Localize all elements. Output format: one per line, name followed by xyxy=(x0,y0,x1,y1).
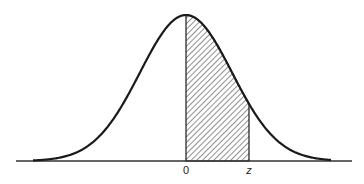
normal-curve-diagram: 0 z xyxy=(0,0,364,184)
normal-curve xyxy=(33,15,331,160)
z-label: z xyxy=(245,164,252,176)
origin-label: 0 xyxy=(183,164,189,176)
